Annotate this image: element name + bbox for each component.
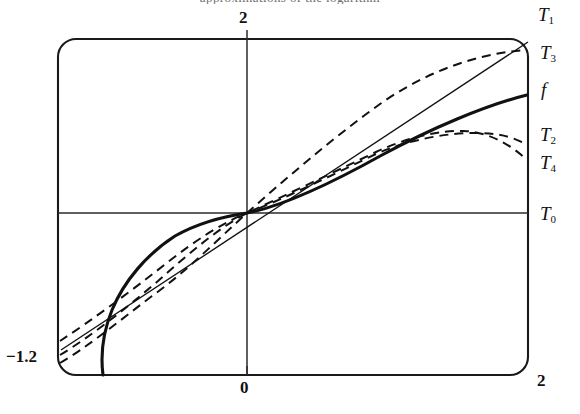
curve-label-T3-base: T [540, 42, 551, 63]
curve-label-T3: T3 [540, 42, 556, 64]
curve-label-T0-sub: 0 [551, 213, 557, 225]
curve-label-T3-sub: 3 [551, 52, 557, 64]
curve-label-f: f [541, 79, 546, 101]
curve-label-f-base: f [541, 79, 546, 100]
x-axis-right-label: 2 [537, 371, 546, 391]
curve-label-T2-base: T [540, 124, 551, 145]
curve-label-T1-sub: 1 [549, 14, 555, 26]
curve-label-T0-base: T [540, 203, 551, 224]
plot-frame [58, 39, 528, 375]
y-axis-top-label: 2 [239, 8, 248, 28]
curve-label-T2: T2 [540, 124, 556, 146]
curve-label-T1-base: T [538, 4, 549, 25]
curve-label-T4: T4 [540, 152, 556, 174]
curve-label-T1: T1 [538, 4, 554, 26]
figure-root: approximations of the logarithm 2 0 2 −1… [0, 0, 580, 414]
x-axis-left-label: −1.2 [6, 347, 37, 367]
curve-label-T2-sub: 2 [551, 134, 557, 146]
curve-label-T4-sub: 4 [551, 162, 557, 174]
x-axis-origin-label: 0 [240, 378, 249, 398]
curve-label-T0: T0 [540, 203, 556, 225]
curve-label-T4-base: T [540, 152, 551, 173]
plot-canvas [0, 0, 580, 414]
